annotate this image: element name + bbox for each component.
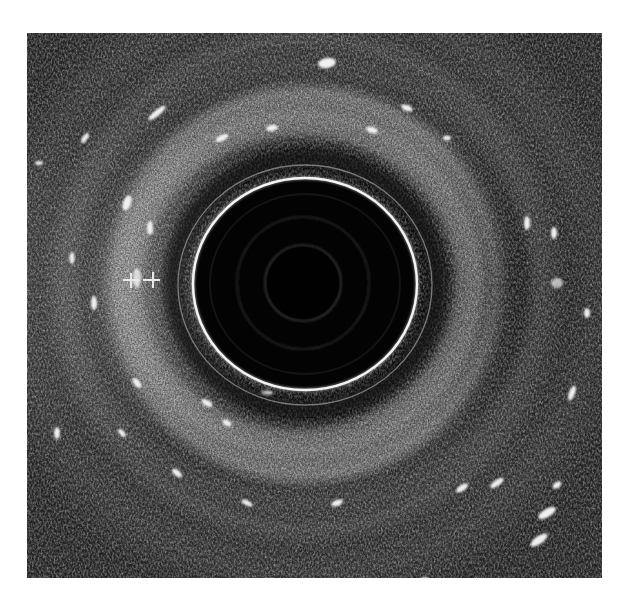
ultrasound-rendering bbox=[27, 33, 602, 578]
ultrasound-image bbox=[27, 33, 602, 578]
